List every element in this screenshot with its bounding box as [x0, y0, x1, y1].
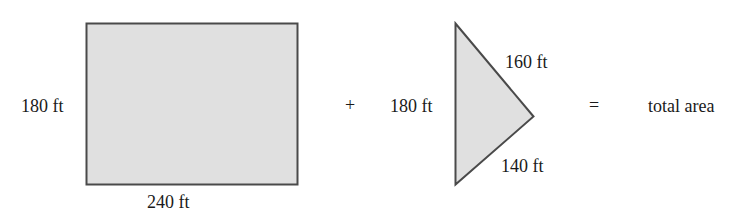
triangle-upper-side-label: 160 ft [505, 52, 548, 72]
rectangle-shape [87, 24, 298, 185]
equals-operator: = [589, 95, 599, 115]
rectangle-width-label: 240 ft [147, 192, 190, 212]
area-diagram: 180 ft 240 ft + 180 ft 160 ft 140 ft = t… [0, 0, 750, 219]
triangle-lower-side-label: 140 ft [501, 156, 544, 176]
rectangle-height-label: 180 ft [21, 96, 64, 116]
triangle-left-side-label: 180 ft [390, 96, 433, 116]
shapes-layer [0, 0, 750, 219]
plus-operator: + [345, 95, 355, 115]
total-area-label: total area [648, 96, 714, 116]
